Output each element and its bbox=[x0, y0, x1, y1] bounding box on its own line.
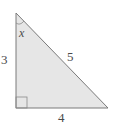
right-triangle bbox=[16, 13, 108, 108]
hypotenuse-label: 5 bbox=[67, 49, 74, 64]
horizontal-leg-label: 4 bbox=[58, 110, 65, 124]
vertical-leg-label: 3 bbox=[1, 52, 8, 67]
triangle-diagram: x 3 5 4 bbox=[0, 0, 115, 124]
angle-label: x bbox=[18, 26, 25, 40]
